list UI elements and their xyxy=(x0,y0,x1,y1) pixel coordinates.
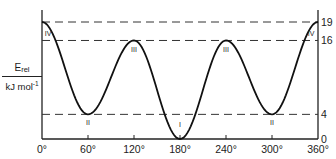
x-tick-label: 240° xyxy=(215,143,237,155)
x-tick-label: 0° xyxy=(37,143,47,155)
point-label-iv: IV xyxy=(45,30,52,37)
energy-profile-chart: 0°60°120°180°240°300°360°041619IVIIIIIII… xyxy=(0,0,336,159)
point-label-ii: II xyxy=(270,119,274,126)
x-tick-label: 60° xyxy=(80,143,96,155)
y-tick-label: 19 xyxy=(321,16,333,28)
point-label-iii: III xyxy=(223,46,229,53)
x-tick-label: 120° xyxy=(123,143,145,155)
y-tick-label: 4 xyxy=(321,108,327,120)
point-label-i: I xyxy=(179,121,181,128)
point-label-ii: II xyxy=(86,119,90,126)
y-tick-label: 16 xyxy=(321,34,333,46)
x-tick-label: 300° xyxy=(261,143,283,155)
point-label-iii: III xyxy=(131,46,137,53)
point-label-iv: IV xyxy=(308,30,315,37)
x-tick-label: 180° xyxy=(169,143,191,155)
y-tick-label: 0 xyxy=(321,133,327,145)
